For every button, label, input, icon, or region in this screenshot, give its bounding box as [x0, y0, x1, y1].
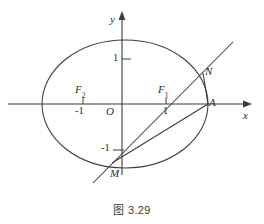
figure-container: y x O F2 F1 -1 1 1 -1 A N M 图 3.29 — [0, 0, 264, 224]
ellipse-geometry-diagram — [0, 0, 264, 224]
segment-m-to-a — [112, 104, 208, 163]
focus-left-subscript: 2 — [82, 91, 86, 100]
y-axis-label: y — [110, 14, 115, 25]
point-label-a: A — [209, 97, 216, 108]
tick-label-y-neg-one: -1 — [101, 143, 110, 154]
x-axis-label: x — [243, 110, 248, 121]
focus-right-subscript: 1 — [165, 91, 169, 100]
x-axis-arrowhead — [243, 101, 252, 108]
tick-label-y-pos-one: 1 — [113, 53, 118, 64]
origin-label: O — [106, 106, 114, 117]
tick-label-x-neg-one: -1 — [75, 106, 84, 117]
y-axis-arrowhead — [119, 11, 126, 20]
tick-label-x-pos-one: 1 — [163, 106, 168, 117]
figure-caption: 图 3.29 — [0, 201, 264, 217]
focus-left-label: F2 — [75, 84, 85, 98]
point-label-n: N — [205, 66, 212, 77]
point-label-m: M — [110, 168, 119, 179]
focus-right-letter: F — [158, 83, 165, 95]
segment-n-to-a — [203, 73, 208, 104]
focus-right-label: F1 — [158, 84, 168, 98]
focus-left-letter: F — [75, 83, 82, 95]
